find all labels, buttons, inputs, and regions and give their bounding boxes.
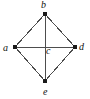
edge-a-e	[15, 47, 45, 81]
edge-a-b	[15, 14, 45, 47]
vertex-label-a: a	[3, 43, 8, 53]
edge-layer	[15, 14, 75, 81]
vertex-label-d: d	[79, 42, 84, 52]
graph-canvas	[0, 0, 90, 99]
vertex-node-d	[73, 45, 77, 49]
vertex-node-b	[43, 12, 47, 16]
vertex-label-e: e	[43, 87, 47, 97]
edge-b-d	[45, 14, 75, 47]
graph-diagram: abcde	[0, 0, 90, 99]
vertex-label-c: c	[46, 46, 50, 56]
vertex-node-e	[43, 79, 47, 83]
vertex-node-a	[13, 45, 17, 49]
vertex-label-b: b	[41, 0, 46, 10]
